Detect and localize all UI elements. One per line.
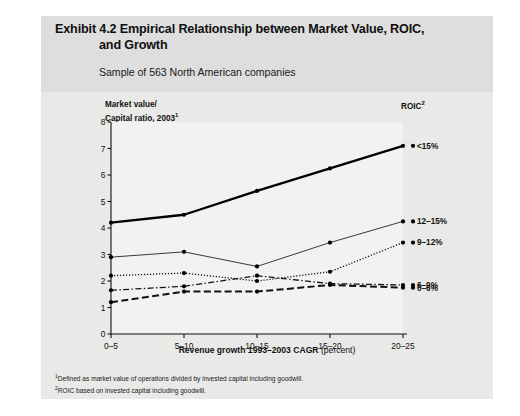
page-root: Exhibit 4.2 Empirical Relationship betwe… [0, 0, 520, 416]
series-label-9–12%: 9–12% [417, 238, 443, 247]
series-point [255, 279, 259, 283]
exhibit-header: Exhibit 4.2 Empirical Relationship betwe… [41, 16, 493, 92]
series-label-marker [411, 144, 415, 148]
y-axis-tick-label: 4 [101, 223, 106, 233]
series-point [182, 213, 186, 217]
line-chart-svg: 0123456780–55–1010–1515–2020–25 <15%12–1… [41, 92, 493, 367]
series-label-<15%: <15% [417, 142, 439, 151]
series-point [182, 290, 186, 294]
series-point [401, 144, 405, 148]
series-point [182, 250, 186, 254]
chart-series-labels: <15%12–15%9–12%6–9%0–6% [417, 142, 448, 293]
series-point [255, 189, 259, 193]
footnote-2: 2ROIC based on invested capital includin… [55, 384, 475, 396]
series-point [328, 240, 332, 244]
series-label-marker [411, 219, 415, 223]
x-axis-title-plain: (percent) [319, 345, 356, 355]
y-axis-tick-label: 7 [101, 144, 106, 154]
y-axis-tick-label: 5 [101, 197, 106, 207]
chart-container: Market value/ Capital ratio, 20031 ROIC2… [41, 92, 493, 367]
series-point [255, 290, 259, 294]
y-axis-tick-label: 2 [101, 276, 106, 286]
series-point [255, 274, 259, 278]
x-axis-title-bold: Revenue growth 1993–2003 CAGR [179, 345, 319, 355]
exhibit-subtitle: Sample of 563 North American companies [99, 66, 296, 78]
y-axis-tick-label: 1 [101, 303, 106, 313]
y-axis-tick-label: 8 [101, 117, 106, 127]
series-point [328, 166, 332, 170]
footnotes: 1Defined as market value of operations d… [55, 372, 475, 395]
series-label-marker [411, 240, 415, 244]
plot-background [111, 122, 403, 334]
footnote-1: 1Defined as market value of operations d… [55, 372, 475, 384]
series-point [401, 219, 405, 223]
series-point [109, 221, 113, 225]
series-label-marker [411, 286, 415, 290]
y-axis-tick-label: 6 [101, 170, 106, 180]
y-axis-tick-label: 0 [101, 329, 106, 339]
series-point [109, 255, 113, 259]
series-point [109, 300, 113, 304]
footnote-1-text: Defined as market value of operations di… [58, 375, 303, 382]
series-point [182, 284, 186, 288]
series-label-0–6%: 0–6% [417, 284, 439, 293]
exhibit-title-line2: and Growth [55, 38, 475, 54]
series-point [328, 283, 332, 287]
series-point [255, 264, 259, 268]
footnote-2-text: ROIC based on invested capital including… [58, 387, 206, 394]
series-point [182, 271, 186, 275]
x-axis-title: Revenue growth 1993–2003 CAGR (percent) [41, 345, 493, 355]
y-axis-tick-label: 3 [101, 250, 106, 260]
exhibit-title: Exhibit 4.2 Empirical Relationship betwe… [55, 22, 475, 53]
series-point [401, 286, 405, 290]
exhibit-title-line1: Exhibit 4.2 Empirical Relationship betwe… [55, 22, 424, 36]
exhibit-panel: Exhibit 4.2 Empirical Relationship betwe… [41, 16, 493, 399]
series-point [401, 240, 405, 244]
series-point [328, 270, 332, 274]
series-point [109, 288, 113, 292]
series-point [109, 274, 113, 278]
series-label-12–15%: 12–15% [417, 217, 448, 226]
